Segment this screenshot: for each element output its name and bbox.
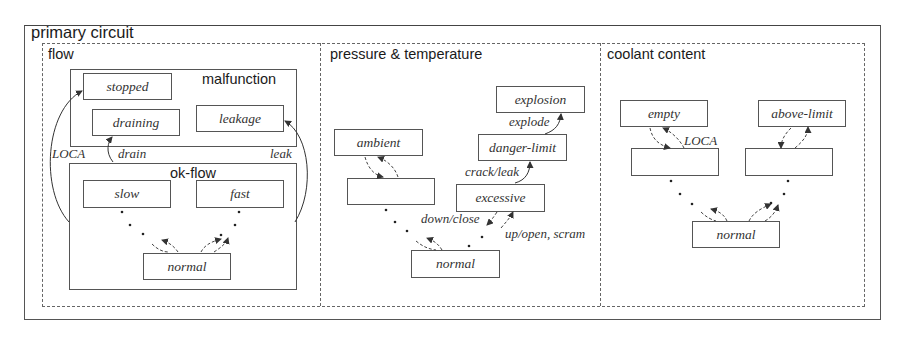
dotted-connector-cc bbox=[670, 180, 790, 206]
arrow-explode bbox=[545, 114, 561, 134]
arrow-leak bbox=[285, 121, 307, 222]
arrow-loca-flow bbox=[50, 91, 82, 222]
transition-arrows-layer bbox=[0, 0, 904, 341]
arrow-crack-leak bbox=[515, 162, 530, 183]
arrow-drain bbox=[108, 137, 113, 162]
dotted-connector-flow bbox=[121, 211, 241, 237]
